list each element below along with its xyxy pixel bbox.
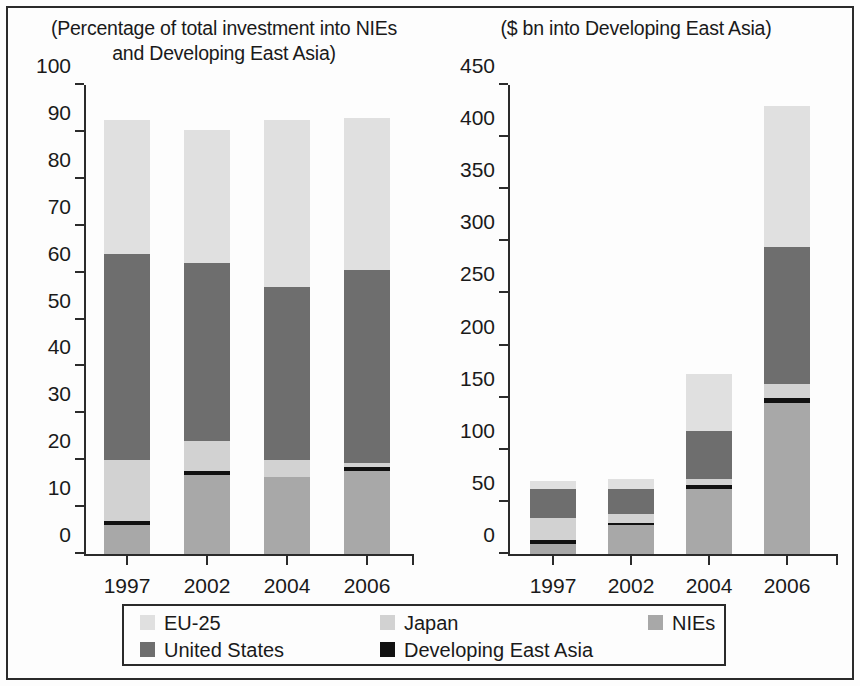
y-axis-label: 90 <box>48 101 71 122</box>
y-axis-label: 250 <box>460 263 495 284</box>
x-axis-tick <box>206 556 208 565</box>
y-axis-label: 20 <box>48 430 71 451</box>
bar-segment-developing-east-asia <box>104 521 150 525</box>
x-axis-tick <box>552 556 554 565</box>
bar-segment-united-states <box>344 270 390 462</box>
y-axis-tick <box>75 83 84 85</box>
bar-segment-nies <box>530 544 576 554</box>
x-axis-label-2002: 2002 <box>608 575 655 596</box>
y-axis-tick <box>75 458 84 460</box>
y-axis-label: 80 <box>48 148 71 169</box>
bar-segment-japan <box>344 463 390 468</box>
bar-2002 <box>184 130 230 554</box>
bar-segment-japan <box>264 460 310 476</box>
bar-segment-eu-25 <box>764 106 810 247</box>
bar-segment-eu-25 <box>184 130 230 264</box>
y-axis-label: 450 <box>460 55 495 76</box>
bar-segment-developing-east-asia <box>686 485 732 489</box>
x-axis-tick <box>786 556 788 565</box>
chart-legend: EU-25JapanNIEs United StatesDeveloping E… <box>122 604 726 666</box>
left-chart-panel: (Percentage of total investment into NIE… <box>8 14 428 574</box>
y-axis-label: 300 <box>460 211 495 232</box>
bar-segment-united-states <box>264 287 310 461</box>
bar-1997 <box>104 120 150 554</box>
right-chart-title: ($ bn into Developing East Asia) <box>424 16 848 41</box>
y-axis-tick <box>499 552 508 554</box>
bar-segment-eu-25 <box>530 481 576 489</box>
legend-label: United States <box>164 640 284 660</box>
bar-segment-developing-east-asia <box>608 523 654 525</box>
x-axis-tick <box>366 556 368 565</box>
bar-2006 <box>764 106 810 554</box>
x-axis-label-2006: 2006 <box>344 575 391 596</box>
y-axis-label: 10 <box>48 477 71 498</box>
x-axis-tick <box>286 556 288 565</box>
y-axis-label: 30 <box>48 383 71 404</box>
y-axis-label: 150 <box>460 367 495 388</box>
y-axis-tick <box>499 396 508 398</box>
legend-swatch-icon <box>140 615 155 630</box>
y-axis-label: 0 <box>59 524 71 545</box>
y-axis-tick <box>75 364 84 366</box>
bar-1997 <box>530 481 576 554</box>
bar-segment-japan <box>764 384 810 398</box>
bar-segment-nies <box>344 471 390 554</box>
left-y-axis <box>84 85 86 556</box>
bar-segment-eu-25 <box>264 120 310 286</box>
y-axis-label: 60 <box>48 242 71 263</box>
x-axis-label-2004: 2004 <box>264 575 311 596</box>
bar-segment-nies <box>104 525 150 554</box>
legend-item-nies: NIEs <box>648 609 715 636</box>
bar-segment-japan <box>104 460 150 521</box>
bar-2002 <box>608 479 654 554</box>
y-axis-tick <box>499 448 508 450</box>
y-axis-label: 0 <box>483 524 495 545</box>
bar-segment-eu-25 <box>608 479 654 489</box>
bar-segment-japan <box>608 514 654 522</box>
right-plot-area: 0501001502002503003504004501997200220042… <box>508 85 838 556</box>
y-axis-tick <box>75 271 84 273</box>
y-axis-tick <box>75 318 84 320</box>
right-y-axis <box>508 85 510 556</box>
bar-2004 <box>264 120 310 554</box>
x-axis-end-tick <box>412 556 414 565</box>
x-axis-tick <box>126 556 128 565</box>
bar-segment-japan <box>686 479 732 485</box>
bar-segment-nies <box>608 525 654 554</box>
chart-figure: (Percentage of total investment into NIE… <box>0 0 860 686</box>
legend-row-top: EU-25JapanNIEs <box>124 609 724 636</box>
bar-2004 <box>686 374 732 554</box>
y-axis-tick <box>499 239 508 241</box>
bar-segment-developing-east-asia <box>764 398 810 403</box>
y-axis-label: 350 <box>460 159 495 180</box>
y-axis-tick <box>499 291 508 293</box>
x-axis-label-1997: 1997 <box>530 575 577 596</box>
bar-segment-japan <box>184 441 230 471</box>
bar-2006 <box>344 118 390 554</box>
legend-swatch-icon <box>648 615 663 630</box>
legend-item-eu-25: EU-25 <box>140 609 221 636</box>
x-axis-tick <box>630 556 632 565</box>
x-axis-end-tick <box>836 556 838 565</box>
y-axis-tick <box>75 130 84 132</box>
legend-label: Developing East Asia <box>404 640 593 660</box>
x-axis-label-1997: 1997 <box>104 575 151 596</box>
bar-segment-united-states <box>686 431 732 479</box>
legend-swatch-icon <box>380 615 395 630</box>
bar-segment-united-states <box>530 489 576 517</box>
y-axis-label: 50 <box>472 471 495 492</box>
bar-segment-united-states <box>608 489 654 514</box>
y-axis-tick <box>499 500 508 502</box>
x-axis-label-2006: 2006 <box>764 575 811 596</box>
bar-segment-eu-25 <box>104 120 150 254</box>
legend-swatch-icon <box>140 642 155 657</box>
legend-item-developing-east-asia: Developing East Asia <box>380 636 593 663</box>
bar-segment-united-states <box>184 263 230 441</box>
left-plot-area: 01020304050607080901001997200220042006 <box>84 85 414 556</box>
left-chart-title: (Percentage of total investment into NIE… <box>8 16 434 66</box>
legend-label: EU-25 <box>164 613 221 633</box>
legend-label: Japan <box>404 613 459 633</box>
y-axis-tick <box>75 224 84 226</box>
y-axis-label: 100 <box>460 419 495 440</box>
y-axis-label: 50 <box>48 289 71 310</box>
